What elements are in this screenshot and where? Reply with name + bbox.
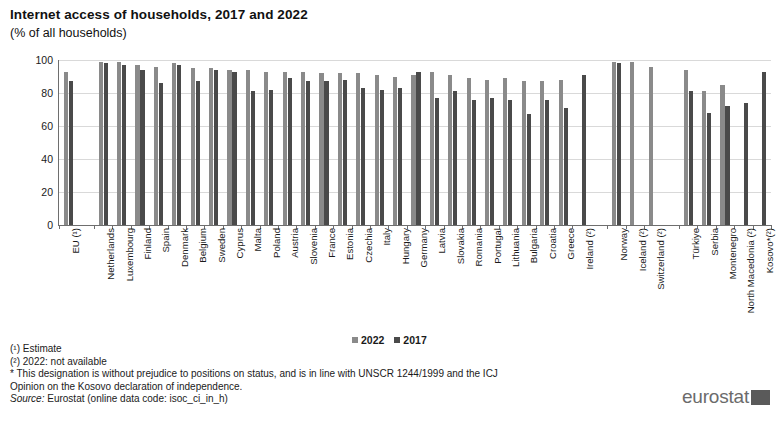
- category-label: Ireland (²): [585, 228, 595, 270]
- source-label: Source:: [10, 393, 44, 404]
- bar-2017: [398, 88, 402, 225]
- bar-2017: [196, 81, 200, 225]
- bar-2022: [191, 68, 195, 225]
- bar-2017: [564, 108, 568, 225]
- bar-2017: [762, 72, 766, 225]
- category-label: Luxembourg: [125, 228, 135, 281]
- chart-title: Internet access of households, 2017 and …: [10, 7, 308, 22]
- bar-2017: [617, 63, 621, 225]
- category-label: Slovakia: [456, 228, 466, 264]
- bar-2022: [227, 70, 231, 225]
- bar-2017: [251, 91, 255, 225]
- bar-2022: [338, 73, 342, 225]
- bar-2022: [485, 80, 489, 225]
- category-label: Greece: [566, 228, 576, 259]
- bar-2017: [689, 91, 693, 225]
- bar-2022: [522, 81, 526, 225]
- eurostat-logo: eurostat: [682, 386, 770, 408]
- category-label: Poland: [272, 228, 282, 258]
- bar-2022: [99, 62, 103, 225]
- category-label: Czechia: [364, 228, 374, 263]
- category-label: Italy: [382, 228, 392, 246]
- bar-2022: [135, 65, 139, 225]
- bar-2017: [380, 90, 384, 225]
- bar-2017: [214, 70, 218, 225]
- bar-2017: [159, 83, 163, 225]
- bar-2017: [490, 98, 494, 225]
- bar-2017: [744, 103, 748, 225]
- bar-2022: [430, 72, 434, 225]
- category-label: Montenegro: [728, 228, 738, 279]
- bar-2017: [527, 114, 531, 225]
- category-label: Norway: [619, 228, 629, 261]
- y-axis-tick-label: 0: [47, 219, 53, 231]
- bar-2022: [649, 67, 653, 225]
- bar-2022: [684, 70, 688, 225]
- source-line: Source: Eurostat (online data code: isoc…: [10, 393, 710, 406]
- category-label: Serbia: [710, 228, 720, 256]
- bar-series-group: [59, 60, 771, 225]
- category-label: Croatia: [548, 228, 558, 259]
- category-label: Hungary: [401, 228, 411, 264]
- bar-2022: [117, 62, 121, 225]
- bar-2022: [301, 72, 305, 225]
- category-label: EU (¹): [71, 228, 81, 254]
- bar-2017: [177, 65, 181, 225]
- bar-2022: [64, 72, 68, 225]
- bar-2017: [69, 81, 73, 225]
- category-label: Cyprus: [235, 228, 245, 258]
- footnote-estimate: (¹) Estimate: [10, 343, 710, 356]
- category-label: Finland: [143, 228, 153, 259]
- y-axis-tick-label: 20: [41, 186, 53, 198]
- category-label: Netherlands: [106, 228, 116, 280]
- category-label: Spain: [161, 228, 171, 253]
- category-label: France: [327, 228, 337, 258]
- bar-2017: [324, 81, 328, 225]
- plot-area: 020406080100: [58, 60, 771, 226]
- bar-2022: [264, 72, 268, 225]
- bar-2022: [720, 85, 724, 225]
- y-axis-tick-label: 100: [35, 54, 53, 66]
- bar-2022: [319, 73, 323, 225]
- bar-2017: [122, 65, 126, 225]
- bar-2022: [467, 78, 471, 225]
- bar-2022: [154, 67, 158, 225]
- bar-2017: [545, 100, 549, 225]
- bar-2017: [435, 98, 439, 225]
- bar-2022: [612, 62, 616, 225]
- category-label: Austria: [290, 228, 300, 258]
- bar-2022: [172, 63, 176, 225]
- category-label: Lithuania: [511, 228, 521, 267]
- category-label: Iceland (²): [638, 228, 648, 271]
- bar-2022: [283, 72, 287, 225]
- category-label: Sweden: [217, 228, 227, 263]
- footnote-designation: * This designation is without prejudice …: [10, 368, 710, 381]
- bar-2022: [503, 78, 507, 225]
- category-label: North Macedonia (²): [746, 228, 756, 313]
- category-label: Estonia: [345, 228, 355, 260]
- chart-subtitle: (% of all households): [10, 26, 127, 40]
- bar-2022: [540, 81, 544, 225]
- bar-2017: [306, 81, 310, 225]
- footnotes: (¹) Estimate (²) 2022: not available * T…: [10, 343, 710, 406]
- bar-2017: [453, 91, 457, 225]
- bar-2022: [411, 75, 415, 225]
- bar-2022: [246, 70, 250, 225]
- category-label: Romania: [474, 228, 484, 266]
- bar-2022: [356, 73, 360, 225]
- eurostat-logo-block: [751, 390, 770, 405]
- y-axis-tick-label: 40: [41, 153, 53, 165]
- bar-2017: [707, 113, 711, 225]
- bar-2017: [472, 100, 476, 225]
- bar-2017: [416, 72, 420, 225]
- category-label: Malta: [253, 228, 263, 251]
- category-label: Bulgaria: [529, 228, 539, 263]
- category-label: Germany: [419, 228, 429, 267]
- y-axis-tick-label: 60: [41, 120, 53, 132]
- bar-2022: [393, 77, 397, 226]
- bar-2022: [630, 62, 634, 225]
- x-axis-category-labels: EU (¹)NetherlandsLuxembourgFinlandSpainD…: [58, 228, 770, 328]
- y-axis-tick-label: 80: [41, 87, 53, 99]
- category-label: Türkiye: [691, 228, 701, 259]
- bar-2022: [702, 91, 706, 225]
